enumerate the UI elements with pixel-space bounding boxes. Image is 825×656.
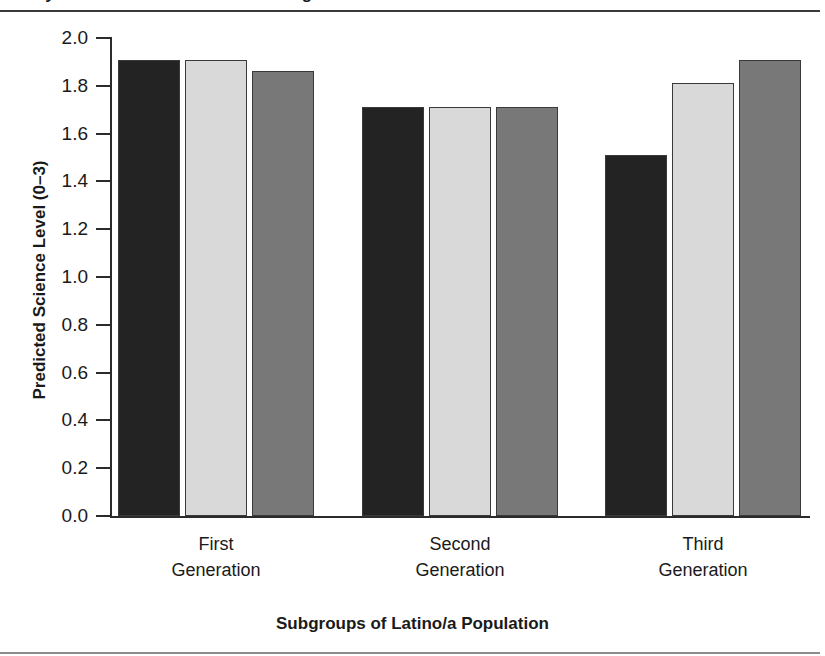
x-axis-group-label: Third Generation bbox=[593, 532, 813, 583]
y-axis-tick-label: 2.0 bbox=[36, 28, 88, 47]
y-axis-tick-mark bbox=[96, 324, 110, 326]
bar bbox=[118, 60, 180, 516]
y-axis-tick-label: 1.4 bbox=[36, 171, 88, 190]
chart-title-text: Study of Science Achievement among Latin… bbox=[8, 0, 457, 4]
y-axis-tick-label: 0.8 bbox=[36, 315, 88, 334]
chart-title-cropped: Study of Science Achievement among Latin… bbox=[0, 0, 825, 10]
y-axis-tick-mark bbox=[96, 228, 110, 230]
bar bbox=[605, 155, 667, 516]
y-axis-tick-label: 1.8 bbox=[36, 76, 88, 95]
y-axis-tick-label: 0.6 bbox=[36, 363, 88, 382]
bar bbox=[429, 107, 491, 516]
bar bbox=[362, 107, 424, 516]
y-axis-tick-label: 1.6 bbox=[36, 124, 88, 143]
y-axis-tick-label: 0.0 bbox=[36, 506, 88, 525]
y-axis-tick-mark bbox=[96, 85, 110, 87]
y-axis-tick-label: 1.0 bbox=[36, 267, 88, 286]
bar bbox=[739, 60, 801, 516]
y-axis-tick-mark bbox=[96, 37, 110, 39]
y-axis-tick-mark bbox=[96, 180, 110, 182]
figure-bar-chart: Study of Science Achievement among Latin… bbox=[0, 0, 825, 656]
x-axis-line bbox=[110, 516, 810, 518]
x-axis-group-label: First Generation bbox=[106, 532, 326, 583]
y-axis-line bbox=[110, 37, 112, 518]
bar bbox=[185, 60, 247, 516]
y-axis-tick-mark bbox=[96, 467, 110, 469]
y-axis-tick-mark bbox=[96, 515, 110, 517]
y-axis-tick-mark bbox=[96, 372, 110, 374]
bottom-divider-rule bbox=[0, 652, 820, 654]
bar bbox=[496, 107, 558, 516]
y-axis-tick-label: 0.2 bbox=[36, 458, 88, 477]
title-divider-rule bbox=[0, 10, 820, 12]
bar bbox=[672, 83, 734, 516]
x-axis-title: Subgroups of Latino/a Population bbox=[0, 614, 825, 634]
y-axis-tick-mark bbox=[96, 133, 110, 135]
y-axis-tick-label: 0.4 bbox=[36, 410, 88, 429]
y-axis-tick-mark bbox=[96, 419, 110, 421]
x-axis-group-label: Second Generation bbox=[350, 532, 570, 583]
bar bbox=[252, 71, 314, 516]
y-axis-tick-label: 1.2 bbox=[36, 219, 88, 238]
y-axis-tick-mark bbox=[96, 276, 110, 278]
